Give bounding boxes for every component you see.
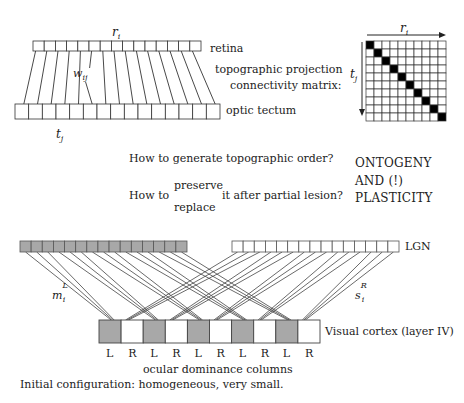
projection-line — [125, 51, 133, 104]
lgn-left-cell — [109, 241, 120, 252]
lgn-right-cell — [254, 241, 265, 252]
cortex-column-left — [187, 320, 209, 343]
matrix-cell — [390, 113, 398, 121]
matrix-cell — [430, 97, 438, 105]
matrix-cell — [398, 57, 406, 65]
right-eye-connection — [129, 252, 260, 320]
matrix-cell — [382, 89, 390, 97]
lgn-right-cell — [366, 241, 377, 252]
footer-caption: Initial configuration: homogeneous, very… — [20, 379, 284, 390]
lgn-right-cell — [310, 241, 321, 252]
tectum-cell — [206, 104, 220, 119]
connectivity-matrix-label: connectivity matrix: — [230, 80, 342, 91]
lgn-left-cell — [154, 241, 165, 252]
retina-cell — [190, 41, 201, 51]
matrix-cell — [382, 73, 390, 81]
lgn-left-cell — [98, 241, 109, 252]
cortex-column-left — [232, 320, 254, 343]
matrix-cell — [422, 49, 430, 57]
matrix-cell — [414, 65, 422, 73]
matrix-cell — [438, 49, 446, 57]
lgn-right-row — [232, 241, 399, 252]
matrix-cell-active — [374, 49, 382, 57]
lgn-left-cell — [76, 241, 87, 252]
matrix-cell — [366, 81, 374, 89]
matrix-cell — [390, 81, 398, 89]
s-superscript: R — [361, 281, 367, 290]
question-option-replace: replace — [174, 202, 216, 213]
tectum-cell — [152, 104, 166, 119]
matrix-cell — [422, 41, 430, 49]
keyword-plasticity: PLASTICITY — [355, 192, 433, 204]
matrix-cell — [374, 41, 382, 49]
retina-cell — [156, 41, 167, 51]
lgn-right-cell — [354, 241, 365, 252]
s-subscript: i — [362, 295, 365, 304]
matrix-cell — [438, 41, 446, 49]
matrix-cell — [438, 73, 446, 81]
matrix-cell — [414, 97, 422, 105]
lgn-right-cell — [243, 241, 254, 252]
matrix-cell — [398, 65, 406, 73]
matrix-cell — [390, 41, 398, 49]
retina-cell — [78, 41, 89, 51]
matrix-cell — [438, 81, 446, 89]
connectivity-matrix — [366, 41, 446, 121]
left-eye-connection — [115, 252, 203, 320]
projection-lines — [24, 51, 215, 104]
lgn-left-cell — [165, 241, 176, 252]
retina-label: retina — [210, 43, 243, 54]
lgn-right-cell — [321, 241, 332, 252]
matrix-cell — [414, 49, 422, 57]
question-option-preserve: preserve — [174, 180, 223, 191]
keyword-ontogeny: ONTOGENY — [355, 157, 432, 169]
left-eye-connection — [81, 252, 158, 320]
matrix-cell — [414, 113, 422, 121]
cortex-column-right — [121, 320, 143, 343]
lgn-right-cell — [277, 241, 288, 252]
matrix-cell — [374, 65, 382, 73]
matrix-cell — [390, 49, 398, 57]
retina-cell — [55, 41, 66, 51]
matrix-cell — [422, 89, 430, 97]
matrix-r-subscript: i — [406, 28, 409, 37]
matrix-cell — [430, 89, 438, 97]
tectum-cell — [138, 104, 152, 119]
matrix-cell — [366, 57, 374, 65]
projection-line — [86, 82, 93, 104]
tectum-cell — [15, 104, 29, 119]
visual-cortex-label: Visual cortex (layer IV) — [325, 326, 454, 337]
lgn-right-cell — [288, 241, 299, 252]
retina-cell — [167, 41, 178, 51]
matrix-cell — [422, 65, 430, 73]
matrix-cell — [406, 105, 414, 113]
matrix-cell — [406, 89, 414, 97]
topographic-projection-label: topographic projection — [215, 64, 343, 75]
matrix-cell — [374, 89, 382, 97]
matrix-cell — [390, 105, 398, 113]
lgn-left-cell — [120, 241, 131, 252]
lgn-label: LGN — [405, 241, 431, 252]
matrix-cell — [430, 73, 438, 81]
matrix-cell — [398, 81, 406, 89]
matrix-cell — [382, 81, 390, 89]
lgn-left-cell — [53, 241, 64, 252]
lgn-left-row — [20, 241, 187, 252]
projection-line — [51, 51, 58, 104]
matrix-cell — [374, 57, 382, 65]
matrix-t-subscript: j — [355, 74, 357, 83]
retina-cell — [134, 41, 145, 51]
matrix-cell — [430, 41, 438, 49]
projection-line — [159, 51, 174, 104]
matrix-cell — [366, 113, 374, 121]
ocular-column-label: L — [150, 348, 157, 359]
retina-row — [33, 41, 201, 51]
matrix-cell — [382, 49, 390, 57]
cortex-column-right — [165, 320, 187, 343]
matrix-cell — [406, 113, 414, 121]
lgn-left-cell — [42, 241, 53, 252]
matrix-cell — [366, 65, 374, 73]
question-prefix: How to — [129, 190, 169, 201]
matrix-cell — [366, 97, 374, 105]
retina-cell — [67, 41, 78, 51]
